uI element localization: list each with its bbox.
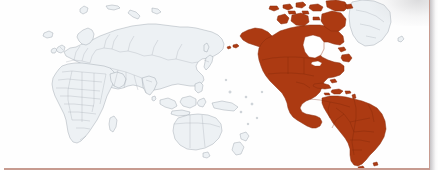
landmass-franz-josef — [106, 5, 120, 10]
region-puerto-rico — [345, 91, 351, 94]
island-dot-5 — [256, 117, 258, 119]
landmass-new-guinea — [212, 101, 238, 111]
landmass-borneo — [180, 96, 196, 108]
region-arctic-isle-2 — [283, 4, 293, 10]
island-dot-4 — [240, 111, 242, 113]
landmass-iceland — [43, 31, 53, 38]
landmass-sri-lanka — [152, 96, 156, 101]
landmass-svalbard — [80, 6, 88, 14]
landmass-africa — [52, 63, 115, 143]
island-dot-8 — [261, 91, 263, 93]
region-arctic-isle-1 — [296, 2, 306, 8]
page-bottom-margin — [0, 170, 438, 180]
region-banks-island — [277, 14, 289, 24]
region-arctic-isle-4 — [302, 11, 309, 14]
region-ellesmere — [326, 0, 348, 11]
landmass-jan-mayen — [398, 36, 404, 42]
region-victoria-island — [291, 13, 309, 26]
region-falklands — [373, 162, 378, 166]
landmass-severnaya — [152, 8, 161, 14]
landmass-australia — [173, 114, 222, 150]
landmass-tasmania — [203, 152, 210, 158]
landmass-philippines — [195, 82, 203, 93]
landmass-greenland — [349, 0, 391, 46]
landmass-new-zealand-south — [232, 142, 244, 155]
landmass-ireland — [51, 48, 57, 53]
region-arctic-isle-5 — [288, 11, 296, 14]
world-map-figure — [0, 0, 430, 169]
scan-edge-shadow — [430, 0, 438, 172]
region-arctic-isle-3 — [269, 6, 279, 11]
island-dot-1 — [229, 91, 231, 93]
landmass-india — [142, 76, 157, 95]
island-dot-2 — [245, 96, 247, 98]
landmass-sulawesi — [197, 98, 206, 107]
landmass-novaya-zemlya — [128, 10, 140, 19]
landmass-sumatra — [160, 98, 177, 109]
region-arctic-isle-6 — [313, 17, 320, 20]
landmass-british-isles — [56, 45, 65, 53]
region-lesser-antilles — [352, 94, 356, 99]
island-dot-6 — [247, 123, 249, 125]
landmass-new-zealand-north — [240, 132, 249, 141]
island-dot-3 — [251, 103, 253, 105]
region-aleutians-2 — [227, 46, 231, 49]
region-newfoundland — [341, 54, 352, 62]
world-map-graphic — [0, 0, 430, 169]
landmass-madagascar — [109, 116, 117, 132]
region-devon-island — [309, 4, 323, 11]
region-labrador-isle — [338, 47, 346, 52]
screenshot-root — [0, 0, 438, 180]
region-bahamas — [330, 79, 337, 83]
region-hispaniola — [331, 89, 343, 94]
region-aleutians-1 — [233, 44, 239, 48]
island-dot-7 — [225, 79, 227, 81]
region-jamaica — [324, 93, 330, 95]
